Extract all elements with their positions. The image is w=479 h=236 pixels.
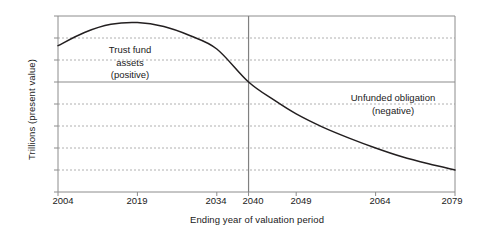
chart-figure: Trillions (present value) Ending year of…	[0, 0, 479, 236]
axis-ticks	[54, 16, 455, 196]
plot-area	[0, 0, 479, 236]
gridlines	[58, 38, 455, 170]
